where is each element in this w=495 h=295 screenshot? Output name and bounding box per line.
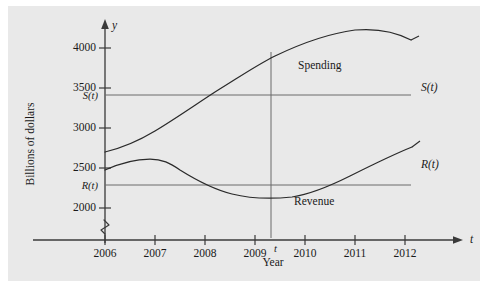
annotation-spending: Spending (298, 60, 341, 72)
x-axis-variable-label: t (470, 234, 473, 246)
y-tick-label-3000: 3000 (52, 122, 96, 134)
y-axis-title: Billions of dollars (24, 89, 36, 199)
x-tick-label-2011: 2011 (332, 248, 378, 260)
x-axis-title: Year (248, 256, 298, 268)
annotation-revenue: Revenue (294, 196, 334, 208)
leader-rt (412, 141, 420, 147)
curve-end-label-rt: R(t) (421, 159, 439, 171)
y-tick-label-4000: 4000 (52, 42, 96, 54)
curve-spending (105, 29, 411, 152)
y-level-label-rt: R(t) (58, 181, 98, 192)
x-tick-label-2006: 2006 (82, 248, 128, 260)
y-axis (101, 19, 109, 243)
x-tick-label-2008: 2008 (182, 248, 228, 260)
figure-container: 4000 3500 3000 2500 2000 S(t) R(t) 2006 … (0, 0, 495, 295)
x-tick-label-2007: 2007 (132, 248, 178, 260)
y-tick-label-2000: 2000 (52, 202, 96, 214)
curve-end-label-st: S(t) (421, 82, 438, 94)
y-level-label-st: S(t) (58, 91, 98, 102)
y-tick-label-2500: 2500 (52, 162, 96, 174)
curve-revenue (105, 147, 412, 198)
t-marker-label: t (274, 244, 277, 255)
y-axis-variable-label: y (112, 20, 117, 32)
leader-st (411, 36, 419, 40)
x-tick-label-2012: 2012 (382, 248, 428, 260)
x-axis (33, 236, 463, 244)
